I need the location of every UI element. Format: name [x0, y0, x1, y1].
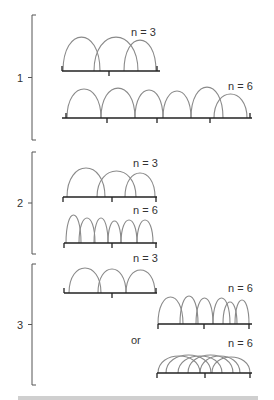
or-connector: or [131, 334, 141, 346]
n-label: n = 3 [133, 157, 158, 169]
group-bracket [32, 264, 36, 385]
panel-n-3: n = 3 [63, 157, 158, 202]
arc [121, 220, 137, 243]
n-label: n = 6 [133, 204, 158, 216]
panel-n-3: n = 3 [62, 26, 160, 76]
panel-n-6: n = 6 [64, 204, 158, 248]
arc [126, 270, 155, 293]
arc [158, 297, 183, 324]
arc [196, 298, 213, 324]
n-label: n = 6 [228, 337, 253, 349]
arc [163, 91, 191, 118]
group-label: 2 [17, 197, 23, 209]
group-2: 2n = 3n = 6 [17, 152, 158, 254]
group-label: 3 [17, 319, 23, 331]
arc [191, 87, 223, 118]
figure-caption-cutoff [18, 396, 258, 400]
arc [124, 40, 156, 71]
arc [67, 89, 101, 118]
arc [101, 88, 135, 118]
panel-n-6: n = 6 [62, 80, 253, 123]
arc [98, 269, 126, 293]
group-1: 1n = 3n = 6 [17, 15, 253, 140]
arc [137, 220, 153, 243]
n-label: n = 6 [228, 282, 253, 294]
panel-n-6: n = 6 [157, 337, 253, 378]
arc [69, 268, 101, 293]
group-bracket [32, 15, 36, 140]
arc [94, 218, 108, 243]
staggered-arcs-figure: 1n = 3n = 62n = 3n = 63n = 3n = 6n = 6or [0, 0, 274, 400]
arc [135, 90, 163, 118]
arc [94, 37, 138, 71]
n-label: n = 3 [131, 26, 156, 38]
panel-n-3: n = 3 [64, 252, 158, 298]
arc [213, 298, 230, 324]
group-bracket [32, 152, 36, 254]
n-label: n = 6 [228, 80, 253, 92]
n-label: n = 3 [133, 252, 158, 264]
group-label: 1 [17, 72, 23, 84]
arc [108, 221, 121, 243]
panel-n-6: n = 6 [158, 282, 253, 329]
group-3: 3n = 3n = 6n = 6 [17, 252, 253, 385]
arc [158, 356, 200, 373]
